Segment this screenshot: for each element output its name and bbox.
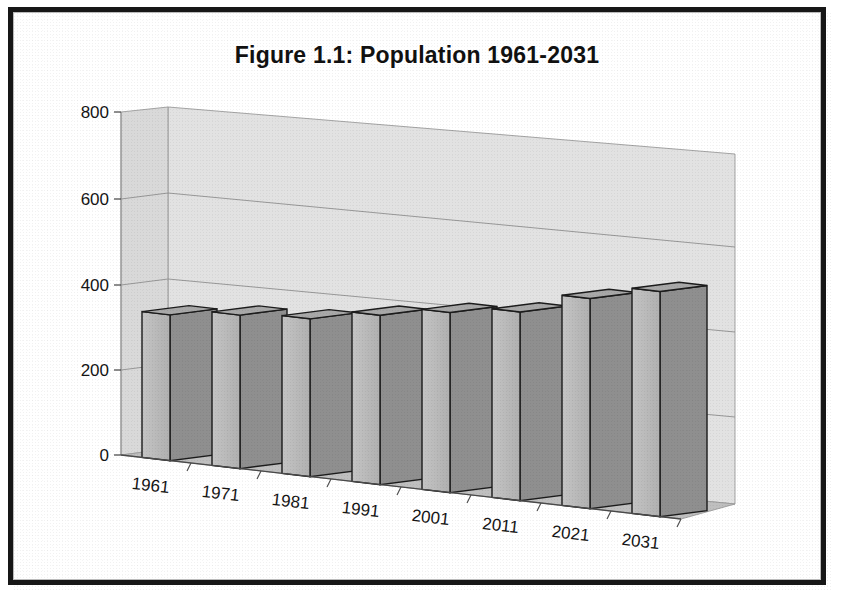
y-tick-label-600: 600 [81,190,109,209]
bar-2031 [632,282,707,516]
chart-plot-area: 800 600 400 200 0 1961197119811991200120… [13,12,831,590]
bar-front-face [352,312,380,485]
y-tick-label-0: 0 [100,446,109,465]
bar-1981 [282,310,357,477]
x-label-2021: 2021 [551,522,591,545]
bar-front-face [562,295,590,508]
x-label-2031: 2031 [621,530,661,553]
bar-side-face [380,309,427,484]
x-label-1981: 1981 [271,490,311,513]
x-label-2011: 2011 [481,514,519,537]
y-tick-label-800: 800 [81,103,109,122]
bar-side-face [310,313,357,477]
x-label-1971: 1971 [201,482,241,505]
bar-front-face [492,309,520,501]
y-tick-label-400: 400 [81,276,109,295]
bar-front-face [422,309,450,492]
y-axis [114,112,121,455]
bar-chart-3d: 800 600 400 200 0 1961197119811991200120… [13,12,831,590]
x-label-1991: 1991 [341,498,381,521]
bar-front-face [282,316,310,477]
bar-side-face [520,306,567,501]
bar-side-face [660,286,707,517]
bar-side-face [450,307,497,493]
y-axis-tick-labels: 800 600 400 200 0 [81,103,109,465]
bar-1971 [212,306,287,469]
y-tick-label-200: 200 [81,361,109,380]
bar-side-face [170,309,217,461]
figure-border: Figure 1.1: Population 1961-2031 [8,7,826,585]
bar-front-face [632,288,660,516]
x-label-1961: 1961 [131,474,171,497]
bar-2021 [562,289,637,508]
bar-2001 [422,303,497,492]
bar-side-face [590,293,637,509]
bar-1961 [142,306,217,461]
bar-front-face [212,312,240,469]
bar-2011 [492,303,567,501]
x-label-2001: 2001 [411,506,451,529]
bar-side-face [240,309,287,468]
bar-front-face [142,312,170,461]
bar-series [142,282,707,516]
bar-1991 [352,306,427,485]
